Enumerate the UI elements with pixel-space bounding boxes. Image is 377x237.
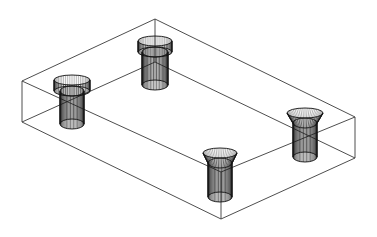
hole-front — [203, 148, 237, 202]
plate-edge — [22, 19, 155, 81]
holes — [54, 36, 323, 202]
plate-edge — [22, 81, 221, 172]
hole-back — [138, 36, 172, 90]
hole-right — [287, 108, 323, 162]
hole-left — [54, 75, 90, 129]
plate-edge — [22, 62, 155, 122]
plate-edge — [221, 117, 355, 172]
plate-edge — [22, 122, 221, 219]
cad-viewport[interactable] — [0, 0, 377, 237]
plate-edge — [155, 62, 355, 158]
plate-edge — [221, 158, 355, 219]
plate-edge — [155, 19, 355, 117]
